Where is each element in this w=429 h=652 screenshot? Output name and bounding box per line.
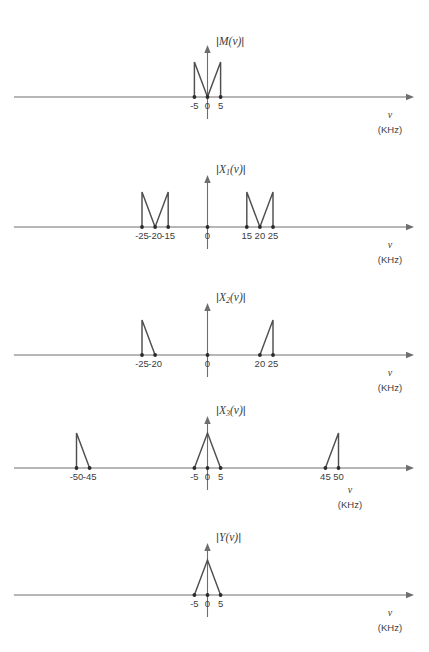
x-tick-label: 50 <box>333 471 344 482</box>
x-axis-unit-label: (KHz) <box>378 124 402 135</box>
x-tick-label: 0 <box>205 100 210 111</box>
vertical-axis-arrow-icon <box>204 416 210 424</box>
axis-marker-dot <box>193 593 197 597</box>
x-tick-label: 15 <box>242 230 253 241</box>
spectrum-segment <box>247 192 260 227</box>
x-tick-label: 0 <box>205 471 210 482</box>
axis-marker-dot <box>206 225 210 229</box>
spectrum-segment <box>142 320 155 355</box>
signal-magnitude-label: |Y(v)| <box>216 531 241 544</box>
axis-marker-dot <box>206 466 210 470</box>
x-axis-unit-label: (KHz) <box>378 622 402 633</box>
signal-magnitude-label: |X2(v)| <box>216 291 246 305</box>
axis-marker-dot <box>219 95 223 99</box>
axis-marker-dot <box>271 225 275 229</box>
x-tick-label: -20 <box>148 358 162 369</box>
axis-marker-dot <box>153 353 157 357</box>
axis-marker-dot <box>88 466 92 470</box>
spectrum-segment <box>260 320 273 355</box>
vertical-axis-arrow-icon <box>204 45 210 53</box>
spectrum-segment <box>155 192 168 227</box>
x-tick-label: 20 <box>255 230 266 241</box>
x-axis-variable-label: v <box>388 607 393 618</box>
x-axis-variable-label: v <box>348 484 353 495</box>
x-tick-label: -5 <box>190 100 198 111</box>
x-tick-label: 5 <box>218 100 223 111</box>
signal-magnitude-label: |X3(v)| <box>216 404 246 418</box>
spectrum-segment <box>194 62 207 97</box>
axis-marker-dot <box>193 466 197 470</box>
signal-magnitude-label: |M(v)| <box>216 35 244 48</box>
axis-marker-dot <box>166 225 170 229</box>
spectrum-plot-5: -505|Y(v)|v(KHz) <box>14 531 414 634</box>
spectrum-segment <box>260 192 273 227</box>
horizontal-axis-arrow-icon <box>406 224 414 230</box>
spectrum-plot-1: -505|M(v)|v(KHz) <box>14 35 414 136</box>
x-tick-label: 20 <box>255 358 266 369</box>
x-tick-label: 0 <box>205 230 210 241</box>
axis-marker-dot <box>337 466 341 470</box>
vertical-axis-arrow-icon <box>204 303 210 311</box>
x-tick-label: 25 <box>268 358 279 369</box>
x-tick-label: 5 <box>218 471 223 482</box>
axis-marker-dot <box>219 466 223 470</box>
spectrum-plot-4: -50-45-5054550|X3(v)|v(KHz) <box>14 404 414 511</box>
x-axis-variable-label: v <box>388 109 393 120</box>
x-tick-label: 5 <box>218 598 223 609</box>
axis-marker-dot <box>206 353 210 357</box>
spectrum-figure: -505|M(v)|v(KHz)-25-20-150152025|X1(v)|v… <box>0 0 429 652</box>
spectrum-plot-2: -25-20-150152025|X1(v)|v(KHz) <box>14 163 414 266</box>
x-tick-label: 0 <box>205 598 210 609</box>
horizontal-axis-arrow-icon <box>406 592 414 598</box>
x-axis-unit-label: (KHz) <box>378 382 402 393</box>
x-tick-label: -5 <box>190 598 198 609</box>
x-tick-label: -50 <box>70 471 84 482</box>
axis-marker-dot <box>324 466 328 470</box>
spectrum-segment <box>208 62 221 97</box>
x-tick-label: 25 <box>268 230 279 241</box>
signal-magnitude-label: |X1(v)| <box>216 163 246 177</box>
x-axis-variable-label: v <box>388 367 393 378</box>
x-axis-unit-label: (KHz) <box>378 254 402 265</box>
x-axis-unit-label: (KHz) <box>338 499 362 510</box>
x-tick-label: -5 <box>190 471 198 482</box>
spectrum-segment <box>142 192 155 227</box>
axis-marker-dot <box>140 353 144 357</box>
axis-marker-dot <box>258 225 262 229</box>
axis-marker-dot <box>153 225 157 229</box>
axis-marker-dot <box>245 225 249 229</box>
plot-canvas: -505|M(v)|v(KHz)-25-20-150152025|X1(v)|v… <box>0 0 429 652</box>
axis-marker-dot <box>140 225 144 229</box>
x-tick-label: -20 <box>148 230 162 241</box>
vertical-axis-arrow-icon <box>204 543 210 551</box>
axis-marker-dot <box>75 466 79 470</box>
axis-marker-dot <box>258 353 262 357</box>
spectrum-plot-3: -25-2002025|X2(v)|v(KHz) <box>14 291 414 394</box>
x-tick-label: 0 <box>205 358 210 369</box>
axis-marker-dot <box>193 95 197 99</box>
axis-marker-dot <box>219 593 223 597</box>
spectrum-segment <box>77 433 90 468</box>
vertical-axis-arrow-icon <box>204 175 210 183</box>
axis-marker-dot <box>271 353 275 357</box>
horizontal-axis-arrow-icon <box>406 465 414 471</box>
x-tick-label: -15 <box>161 230 175 241</box>
axis-marker-dot <box>206 593 210 597</box>
horizontal-axis-arrow-icon <box>406 352 414 358</box>
spectrum-segment <box>325 433 338 468</box>
x-tick-label: -25 <box>135 230 149 241</box>
x-tick-label: 45 <box>320 471 331 482</box>
horizontal-axis-arrow-icon <box>406 94 414 100</box>
x-tick-label: -45 <box>83 471 97 482</box>
x-tick-label: -25 <box>135 358 149 369</box>
axis-marker-dot <box>206 95 210 99</box>
x-axis-variable-label: v <box>388 239 393 250</box>
